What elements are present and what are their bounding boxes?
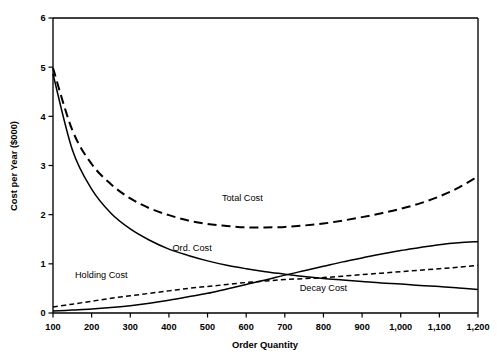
- series-label-decay-cost: Decay Cost: [300, 283, 348, 293]
- y-tick-label: 2: [40, 210, 45, 220]
- y-tick-label: 1: [40, 259, 45, 269]
- y-tick-label: 4: [40, 112, 46, 122]
- x-tick-label: 800: [316, 322, 331, 332]
- x-axis-title: Order Quantity: [232, 339, 299, 350]
- x-tick-label: 1,200: [467, 322, 490, 332]
- y-tick-label: 3: [40, 161, 45, 171]
- series-label-ord-cost: Ord. Cost: [172, 243, 212, 253]
- x-tick-label: 1,100: [428, 322, 451, 332]
- x-tick-label: 500: [200, 322, 215, 332]
- y-axis-title: Cost per Year ($000): [8, 121, 19, 211]
- series-curve-ord-cost: [53, 74, 478, 289]
- x-tick-label: 700: [277, 322, 292, 332]
- x-tick-label: 900: [354, 322, 369, 332]
- chart-axes: [53, 18, 478, 313]
- y-axis-ticks: 0123456: [40, 13, 53, 318]
- x-tick-label: 1,000: [389, 322, 412, 332]
- x-axis-ticks: 1002003004005006007008009001,0001,1001,2…: [45, 313, 489, 332]
- x-tick-label: 400: [161, 322, 176, 332]
- series-label-holding-cost: Holding Cost: [75, 270, 128, 280]
- chart-container: 0123456 1002003004005006007008009001,000…: [0, 0, 497, 359]
- x-tick-label: 600: [239, 322, 254, 332]
- y-tick-label: 5: [40, 63, 45, 73]
- x-tick-label: 100: [45, 322, 60, 332]
- y-tick-label: 6: [40, 13, 45, 23]
- series-curve-total-cost: [53, 68, 478, 227]
- cost-vs-order-quantity-chart: 0123456 1002003004005006007008009001,000…: [0, 0, 497, 359]
- x-tick-label: 200: [84, 322, 99, 332]
- series-label-total-cost: Total Cost: [222, 193, 263, 203]
- x-tick-label: 300: [123, 322, 138, 332]
- y-tick-label: 0: [40, 308, 45, 318]
